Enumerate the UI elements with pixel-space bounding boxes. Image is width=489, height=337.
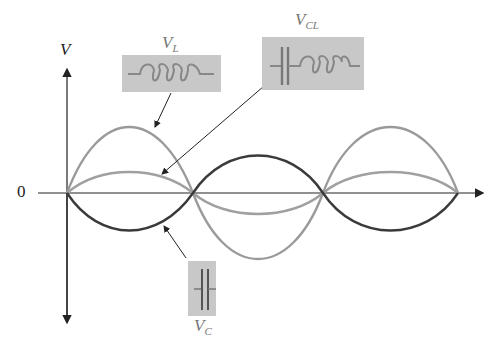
inductor-icon	[122, 55, 221, 92]
vcl-pointer	[162, 86, 264, 174]
origin-label: 0	[17, 182, 26, 202]
capacitor-icon	[188, 261, 216, 316]
y-axis-label: V	[60, 40, 70, 60]
vl-label: VL	[162, 33, 179, 54]
vl-pointer	[155, 93, 171, 127]
vc-pointer	[164, 226, 186, 258]
vc-label: VC	[194, 316, 212, 337]
vcl-label: VCL	[295, 10, 319, 31]
capacitor-inductor-icon	[262, 37, 364, 90]
